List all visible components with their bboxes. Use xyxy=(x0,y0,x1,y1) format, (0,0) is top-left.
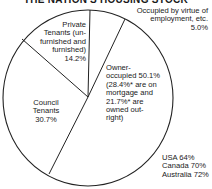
label-value: 5.0% xyxy=(137,24,208,32)
label-value: 30.7% xyxy=(24,116,68,124)
label-owner-occupied: Owner- occupied 50.1% (28.4%* are on mor… xyxy=(106,64,160,123)
label-private-tenants: Private Tenants (un- furnished and furni… xyxy=(30,21,86,63)
label-employment: Occupied by virtue of employment, etc. 5… xyxy=(137,7,208,32)
comparison-australia: Australia 72% xyxy=(162,171,209,179)
label-country-comparison: USA 64% Canada 70% Australia 72% xyxy=(162,154,209,179)
label-council-tenants: Council Tenants 30.7% xyxy=(24,99,68,124)
label-line: right) xyxy=(106,114,160,122)
label-value: 14.2% xyxy=(30,55,86,63)
